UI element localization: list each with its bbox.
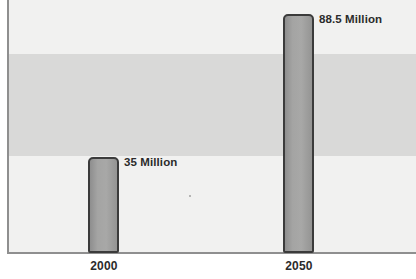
x-tick-label-2000: 2000 bbox=[74, 259, 134, 273]
x-tick-label-2050: 2050 bbox=[269, 259, 329, 273]
value-label-2000: 35 Million bbox=[124, 156, 177, 168]
background-band bbox=[7, 54, 416, 156]
plot-area bbox=[7, 0, 416, 254]
value-label-2050: 88.5 Million bbox=[319, 13, 382, 25]
bar-2000[interactable] bbox=[88, 157, 119, 253]
bar-2050[interactable] bbox=[283, 14, 314, 253]
bar-chart: 35 Million 88.5 Million 2000 2050 bbox=[0, 0, 416, 279]
y-axis-line bbox=[7, 0, 9, 254]
speck-mark bbox=[189, 195, 191, 197]
x-axis-line bbox=[7, 252, 416, 254]
